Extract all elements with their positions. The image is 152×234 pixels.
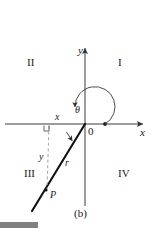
quadrant-label-three: III <box>24 168 35 179</box>
origin-label: 0 <box>88 126 94 137</box>
y-axis-label: y <box>78 45 83 56</box>
x-axis-label: x <box>140 127 145 138</box>
radius-label: r <box>65 158 69 168</box>
right-angle-marker <box>44 126 49 132</box>
angle-arc-tail <box>67 132 73 141</box>
footer-gray-bar <box>0 222 38 228</box>
quadrant-label-two: II <box>27 57 34 68</box>
y-component-label: y <box>39 152 43 162</box>
angle-theta-label: θ <box>75 105 80 115</box>
quadrant-label-four: IV <box>118 168 130 179</box>
figure-caption: (b) <box>74 208 87 219</box>
point-p-label: P <box>50 190 56 200</box>
terminal-ray <box>32 124 85 211</box>
angle-arc <box>75 87 115 124</box>
x-component-label: x <box>55 112 59 122</box>
quadrant-label-one: I <box>118 57 122 68</box>
coordinate-plane-diagram <box>0 0 152 234</box>
y-component-dashed-line <box>47 126 49 189</box>
